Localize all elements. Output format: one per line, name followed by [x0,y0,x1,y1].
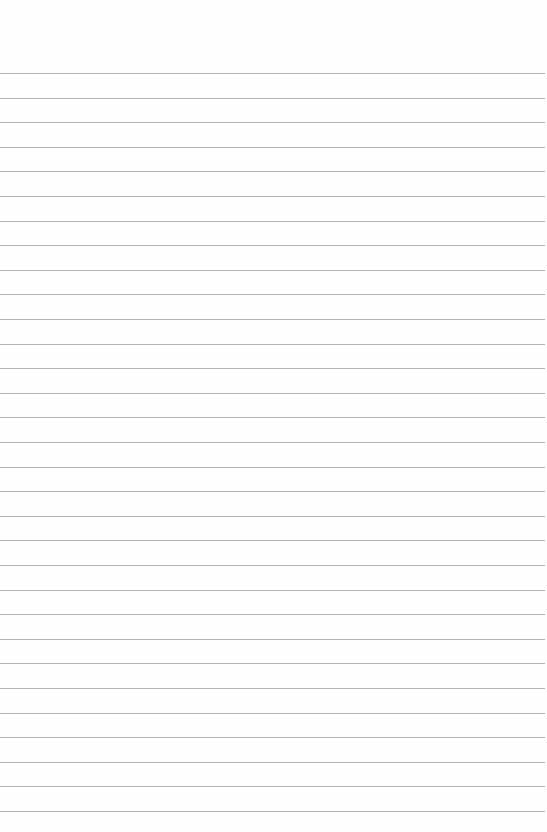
lined-paper-sheet [0,0,547,832]
ruled-line [0,294,545,295]
ruled-line [0,786,545,787]
ruled-line [0,196,545,197]
ruled-line [0,368,545,369]
ruled-line [0,516,545,517]
ruled-line [0,147,545,148]
ruled-line [0,614,545,615]
ruled-line [0,73,545,74]
ruled-line [0,737,545,738]
ruled-line [0,540,545,541]
ruled-line [0,245,545,246]
ruled-line [0,270,545,271]
ruled-line [0,688,545,689]
ruled-line [0,171,545,172]
ruled-line [0,319,545,320]
ruled-line [0,393,545,394]
ruled-line [0,467,545,468]
ruled-line [0,590,545,591]
ruled-line [0,221,545,222]
ruled-line [0,344,545,345]
ruled-line [0,811,545,812]
ruled-line [0,491,545,492]
ruled-line [0,417,545,418]
ruled-line [0,762,545,763]
ruled-line [0,442,545,443]
ruled-line [0,98,545,99]
ruled-line [0,663,545,664]
ruled-line [0,713,545,714]
ruled-line [0,639,545,640]
ruled-line [0,565,545,566]
ruled-line [0,122,545,123]
